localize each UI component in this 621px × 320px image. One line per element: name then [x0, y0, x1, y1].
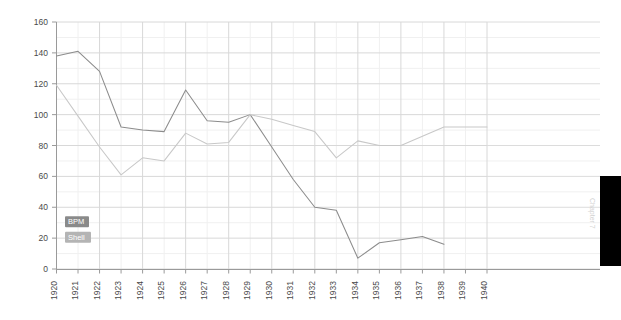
- x-tick-label-1934: 1934: [350, 281, 360, 300]
- x-tick-label-1922: 1922: [92, 281, 102, 300]
- x-axis-tick-labels: 1920192119221923192419251926192719281929…: [49, 281, 490, 300]
- x-tick-label-1933: 1933: [328, 281, 338, 300]
- y-tick-label-160: 160: [34, 17, 48, 27]
- x-tick-label-1932: 1932: [307, 281, 317, 300]
- x-tick-label-1930: 1930: [264, 281, 274, 300]
- x-tick-label-1935: 1935: [371, 281, 381, 300]
- chart-figure: 020406080100120140160 192019211922192319…: [0, 0, 621, 320]
- y-tick-label-60: 60: [39, 171, 49, 181]
- x-tick-label-1931: 1931: [285, 281, 295, 300]
- x-axis-tick-marks: [57, 269, 488, 274]
- legend-label: BPM: [68, 217, 84, 226]
- legend-item-bpm[interactable]: BPM: [65, 216, 89, 227]
- legend-item-shell[interactable]: Shell: [65, 232, 91, 243]
- chart-background: [0, 0, 621, 320]
- y-tick-label-0: 0: [43, 264, 48, 274]
- y-tick-label-20: 20: [39, 233, 49, 243]
- line-chart: 020406080100120140160 192019211922192319…: [0, 0, 621, 320]
- y-tick-label-120: 120: [34, 79, 48, 89]
- x-tick-label-1940: 1940: [479, 281, 489, 300]
- x-tick-label-1937: 1937: [414, 281, 424, 300]
- y-tick-label-140: 140: [34, 48, 48, 58]
- legend-label: Shell: [68, 233, 85, 242]
- x-tick-label-1925: 1925: [156, 281, 166, 300]
- x-tick-label-1920: 1920: [49, 281, 59, 300]
- y-tick-label-100: 100: [34, 110, 48, 120]
- x-tick-label-1924: 1924: [135, 281, 145, 300]
- black-tab: [600, 176, 621, 266]
- chapter-label: Chapter 7: [588, 198, 596, 229]
- x-tick-label-1921: 1921: [70, 281, 80, 300]
- x-tick-label-1939: 1939: [457, 281, 467, 300]
- x-tick-label-1929: 1929: [242, 281, 252, 300]
- x-tick-label-1936: 1936: [393, 281, 403, 300]
- x-tick-label-1928: 1928: [221, 281, 231, 300]
- x-tick-label-1927: 1927: [199, 281, 209, 300]
- y-tick-label-40: 40: [39, 202, 49, 212]
- x-tick-label-1923: 1923: [113, 281, 123, 300]
- x-tick-label-1926: 1926: [178, 281, 188, 300]
- x-tick-label-1938: 1938: [436, 281, 446, 300]
- y-tick-label-80: 80: [39, 141, 49, 151]
